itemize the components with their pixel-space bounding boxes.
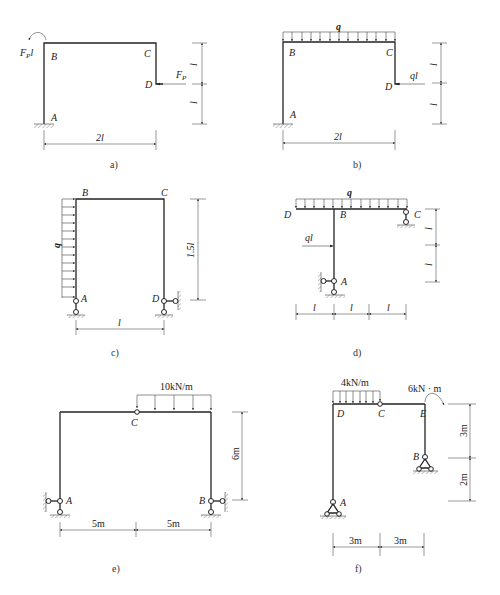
- dim-horizontal-b: 2l: [334, 131, 342, 142]
- moment-arrow-icon: [425, 393, 444, 405]
- support-A-e: [46, 499, 51, 504]
- support-B-e: [220, 499, 225, 504]
- distributed-load-arrows-d: [296, 199, 407, 208]
- hinge-C-e: [135, 410, 140, 415]
- frame-c: [76, 199, 164, 300]
- node-C-f: C: [378, 408, 385, 419]
- dim-vertical-lower-f: 2m: [458, 473, 469, 486]
- distributed-load-label-b: q: [336, 21, 341, 32]
- node-A-f: A: [339, 497, 347, 508]
- distributed-load-arrows-f: [333, 391, 380, 403]
- distributed-load-label-d: q: [347, 187, 352, 198]
- moment-label-f: 6kN · m: [408, 383, 442, 394]
- force-label-a: FP: [175, 69, 187, 82]
- dim-horizontal-2-d: l: [350, 302, 353, 313]
- force-label-b: ql: [410, 70, 418, 81]
- dim-vertical-e: 6m: [230, 447, 241, 460]
- figure-d: q ql D B C A l l l: [283, 187, 440, 359]
- dim-vertical-upper-f: 3m: [458, 424, 469, 437]
- node-D-d: D: [283, 209, 292, 220]
- fixed-support-a: [34, 124, 54, 128]
- frame-b: [283, 42, 400, 124]
- figure-c: q B C A D 1.5l l c): [51, 187, 206, 359]
- dim-horizontal-3-d: l: [387, 302, 390, 313]
- dim-horizontal-1-e: 5m: [92, 518, 105, 529]
- dim-horizontal-c: l: [118, 317, 121, 328]
- pinned-support-A-d: [321, 279, 326, 284]
- moment-arrow-icon: [29, 33, 46, 41]
- distributed-load-label-e: 10kN/m: [160, 381, 193, 392]
- caption-f: f): [355, 563, 362, 575]
- dim-vertical-lower-b: l: [428, 103, 439, 106]
- moment-label-a: FPl: [19, 47, 33, 60]
- node-C-c: C: [161, 187, 168, 198]
- dim-horizontal-1-f: 3m: [349, 535, 362, 546]
- caption-e: e): [112, 563, 120, 575]
- distributed-load-label-f: 4kN/m: [341, 377, 369, 388]
- structural-frames-figure: FPl FP B C D A l l 2l a): [0, 0, 500, 595]
- node-A-c: A: [80, 293, 88, 304]
- node-A-e: A: [65, 495, 73, 506]
- node-C-a: C: [144, 48, 151, 59]
- dim-horizontal-2-e: 5m: [167, 518, 180, 529]
- node-D-b: D: [384, 81, 393, 92]
- node-B-b: B: [289, 47, 295, 58]
- caption-d: d): [353, 347, 361, 359]
- node-A-a: A: [50, 112, 58, 123]
- dim-vertical-upper-d: l: [423, 227, 434, 230]
- node-D-c: D: [151, 293, 160, 304]
- distributed-load-label-c: q: [51, 243, 62, 248]
- node-C-b: C: [386, 47, 393, 58]
- dim-vertical-lower-d: l: [423, 263, 434, 266]
- dim-vertical-c: 1.5l: [185, 243, 196, 259]
- dim-horizontal-2-f: 3m: [394, 535, 407, 546]
- node-B-e: B: [199, 495, 205, 506]
- distributed-load-arrows-b: [283, 32, 395, 41]
- node-D-a: D: [144, 79, 153, 90]
- dim-vertical-upper-a: l: [188, 63, 199, 66]
- figure-e: 10kN/m C A B 6m 5m 5m e): [43, 381, 248, 575]
- node-B-c: B: [82, 187, 88, 198]
- node-B-a: B: [51, 51, 57, 62]
- fixed-support-b: [273, 124, 293, 128]
- node-C-e: C: [131, 417, 138, 428]
- roller-support-A-c: [74, 310, 79, 315]
- caption-a: a): [110, 159, 118, 171]
- node-C-d: C: [414, 209, 421, 220]
- roller-support-C-d: [404, 220, 409, 225]
- caption-b: b): [353, 159, 361, 171]
- caption-c: c): [111, 347, 119, 359]
- node-A-b: A: [289, 109, 297, 120]
- dim-vertical-lower-a: l: [188, 101, 199, 104]
- node-B-f: B: [413, 451, 419, 462]
- dim-horizontal-a: 2l: [96, 132, 104, 143]
- node-E-f: E: [419, 408, 426, 419]
- hinge-C-f: [378, 402, 383, 407]
- figure-f: 4kN/m 6kN · m D C E B A 3m: [320, 377, 476, 575]
- pinned-support-D-c: [173, 299, 178, 304]
- distributed-load-arrows-e: [137, 395, 211, 410]
- node-B-d: B: [340, 209, 346, 220]
- node-D-f: D: [336, 408, 345, 419]
- force-label-d: ql: [305, 232, 313, 243]
- dim-vertical-upper-b: l: [428, 63, 439, 66]
- figure-b: q ql B C D A l l 2l b): [273, 21, 447, 171]
- node-A-d: A: [340, 276, 348, 287]
- lateral-load-arrows-c: [62, 199, 75, 297]
- figure-a: FPl FP B C D A l l 2l a): [19, 33, 207, 172]
- dim-horizontal-1-d: l: [313, 302, 316, 313]
